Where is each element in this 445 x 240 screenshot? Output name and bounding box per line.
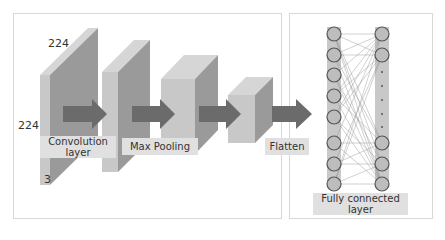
width-dim-label: 224 — [48, 37, 69, 50]
conv-layer-label: Convolution layer — [40, 136, 116, 158]
depth-dim-label: 3 — [44, 173, 51, 186]
fc-network — [327, 27, 389, 191]
max-pooling-label: Max Pooling — [122, 138, 198, 155]
flatten-label: Flatten — [265, 138, 309, 155]
height-dim-label: 224 — [18, 119, 39, 132]
fc-layer-label: Fully connected layer — [313, 193, 408, 215]
